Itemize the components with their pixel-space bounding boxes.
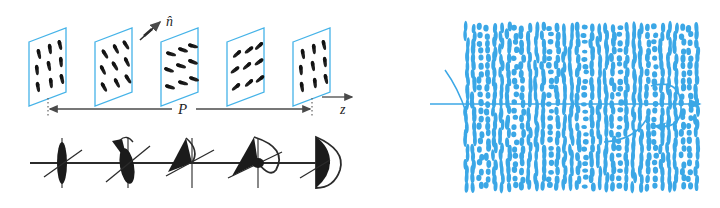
plane-4 [227,28,265,106]
helix-rod [695,75,699,85]
pitch-label: P [177,101,187,117]
helix-rod [549,109,554,114]
helix-rod [514,139,520,145]
helix-rod [589,174,594,183]
helix-rod [513,39,518,45]
helix-rod [680,24,685,31]
plane-3 [161,28,200,106]
helix-rod [582,40,588,44]
plane-2 [95,28,132,106]
helix-rod [617,48,622,52]
director-label: n̂ [166,14,173,29]
helix-rod [498,43,502,55]
helix-rod [477,76,482,84]
helix-rod [596,157,600,168]
helix-rod [479,182,484,189]
helix-rod [668,66,672,78]
helix-rod [549,84,555,89]
helix-rod [513,115,519,120]
helix-rod [645,115,650,124]
plane-1 [29,28,66,106]
helix-rod [513,84,519,89]
plane-5 [293,28,330,106]
helix-rod [688,31,693,37]
helix-rod [511,131,516,137]
helix-rod [511,108,517,114]
z-axis-label: z [339,102,346,117]
helix-rod [494,142,498,153]
helix-rod [535,180,539,192]
helix-rod [630,181,634,193]
helix-rod [548,130,553,135]
helix-rod [546,26,552,31]
helix-rod [486,160,491,168]
helix-rod [694,127,698,137]
cholesteric-liquid-crystal-figure: n̂ P z [0,0,720,208]
helix-rod [688,182,693,189]
helix-rod [547,137,553,143]
helix-rod [618,160,623,166]
helix-rod [647,143,652,151]
